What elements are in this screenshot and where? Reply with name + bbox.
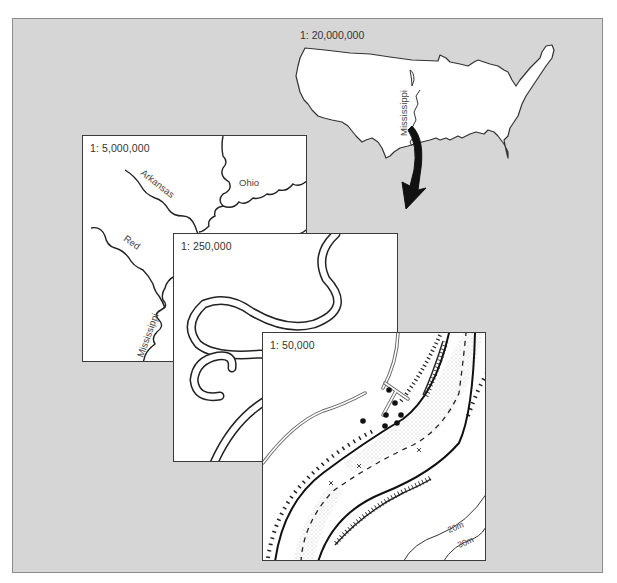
river-bank-left	[275, 333, 449, 561]
building-dot	[392, 400, 398, 406]
map-panel-detail: 20m 30m 1: 50,000	[262, 332, 486, 561]
river-ohio-upper	[199, 136, 230, 232]
river-label-ohio: Ohio	[239, 177, 259, 188]
contour-label-20m: 20m	[446, 519, 465, 534]
contour-20m	[403, 493, 486, 561]
river-ohio	[223, 180, 307, 207]
river-label-mississippi-us: Mississippi	[398, 90, 409, 136]
contour-label-30m: 30m	[456, 534, 475, 549]
road-upper	[383, 333, 398, 388]
x-mark	[417, 448, 421, 452]
building-dot	[383, 412, 389, 418]
us-outline-map-icon: Mississippi	[290, 0, 617, 230]
scale-label-detail: 1: 50,000	[270, 339, 315, 351]
sandbar-upper	[343, 333, 483, 473]
building-dot	[382, 423, 388, 429]
scale-label-meander: 1: 250,000	[181, 240, 232, 252]
building-dot	[360, 418, 366, 424]
building-dot	[386, 387, 392, 393]
road-spur	[383, 383, 408, 415]
building-dot	[394, 420, 400, 426]
x-mark	[329, 481, 333, 485]
bank-hatch-left	[268, 431, 373, 558]
river-label-red: Red	[122, 233, 143, 252]
river-label-arkansas: Arkansas	[139, 167, 177, 200]
scale-label-regional: 1: 5,000,000	[90, 142, 150, 154]
building-dot	[398, 412, 404, 418]
us-outline	[296, 45, 554, 158]
